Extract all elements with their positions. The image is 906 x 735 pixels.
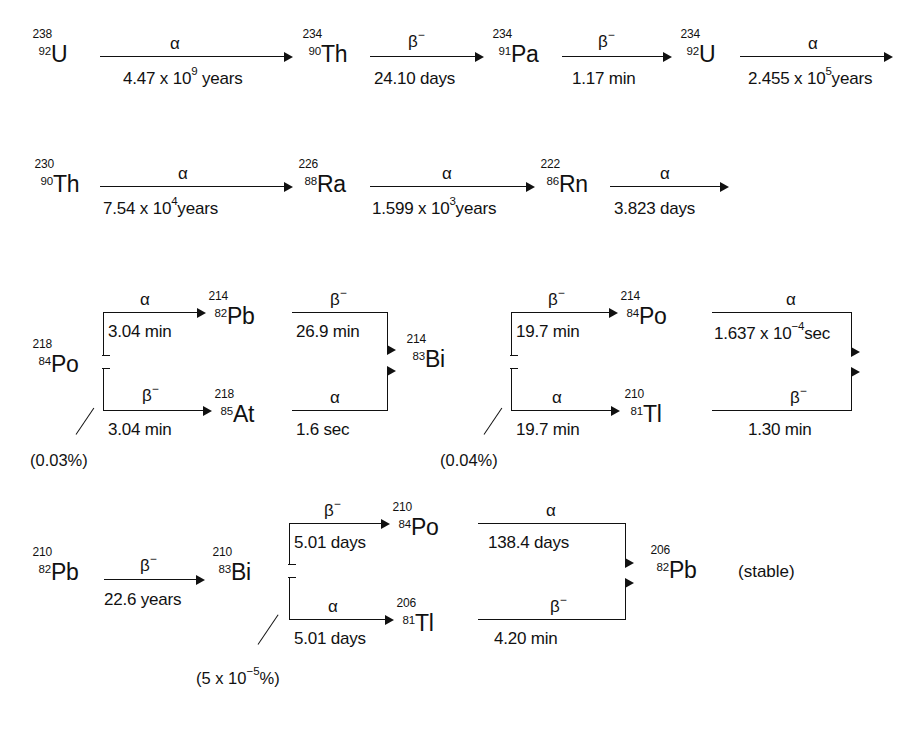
nuclide-po-210: 210 84 Po <box>390 503 440 533</box>
decay-mode-bi210-tl206: α <box>328 595 338 615</box>
arrow-shaft-ra226-rn222 <box>370 186 528 187</box>
nuclide-numbers: 214 82 <box>206 292 228 318</box>
nuclide-pb-214: 214 82 Pb <box>206 292 256 322</box>
arrowhead-tl210-pb210 <box>851 367 860 377</box>
decay-mode-tl206-pb206: β− <box>550 595 567 615</box>
arrow-shaft-po218-pb214 <box>103 312 199 313</box>
arrow-shaft-pb210-bi210 <box>104 579 198 580</box>
nuclide-ra-226: 226 88 Ra <box>296 160 347 190</box>
arrowhead-pb214-bi214 <box>387 345 396 355</box>
nuclide-numbers: 218 85 <box>212 390 234 416</box>
nuclide-th-230: 230 90 Th <box>32 160 80 190</box>
arrow-shaft-bi214-tl210 <box>511 410 613 411</box>
arrowhead-bi210-tl206 <box>385 615 394 625</box>
arrow-drop-po214-pb210 <box>851 312 852 352</box>
halflife-tl210-pb210: 1.30 min <box>748 421 812 438</box>
element-symbol: Tl <box>415 612 434 635</box>
element-symbol: Po <box>51 353 79 376</box>
halflife-at218-bi214: 1.6 sec <box>296 421 349 438</box>
decay-mode-tl210-pb210: β− <box>790 386 807 406</box>
element-symbol: Po <box>411 516 439 539</box>
element-symbol: Bi <box>425 348 445 371</box>
nuclide-numbers: 234 92 <box>678 30 700 56</box>
nuclide-numbers: 234 91 <box>490 30 512 56</box>
nuclide-numbers: 222 86 <box>538 160 560 186</box>
leader-line-branch-at218 <box>76 408 95 435</box>
arrow-shaft-u238-th234 <box>100 56 286 57</box>
element-symbol: Th <box>321 43 347 66</box>
arrowhead-pa234-u234 <box>663 52 672 62</box>
arrowhead-u238-th234 <box>284 52 293 62</box>
halflife-po218-pb214: 3.04 min <box>108 323 172 340</box>
arrow-shaft-pb214-bi214 <box>292 312 388 313</box>
decay-mode-u234-th230: α <box>808 32 818 52</box>
nuclide-numbers: 210 83 <box>210 548 232 574</box>
branch-label-tl206: (5 x 10−5%) <box>196 668 280 686</box>
arrowhead-rn222-po218 <box>720 182 729 192</box>
nuclide-u-234: 234 92 U <box>678 30 716 60</box>
arrow-riser-at218-bi214 <box>387 371 388 411</box>
nuclide-numbers: 218 84 <box>30 340 52 366</box>
arrow-riser-tl206-pb206 <box>625 583 626 620</box>
halflife-pa234-u234: 1.17 min <box>572 68 636 87</box>
halflife-u234-th230: 2.455 x 105years <box>748 68 872 87</box>
element-symbol: Pb <box>669 559 697 582</box>
arrowhead-th230-ra226 <box>284 182 293 192</box>
element-symbol: Rn <box>559 173 588 196</box>
arrow-shaft-th234-pa234 <box>370 56 477 57</box>
halflife-pb210-bi210: 22.6 years <box>104 591 181 608</box>
nuclide-numbers: 214 83 <box>404 335 426 361</box>
arrowhead-po218-pb214 <box>197 308 206 318</box>
element-symbol: Ra <box>317 173 346 196</box>
element-symbol: Po <box>639 305 667 328</box>
decay-mode-pb210-bi210: β− <box>140 554 157 574</box>
arrow-shaft-bi214-po214 <box>511 312 611 313</box>
arrowhead-at218-bi214 <box>387 366 396 376</box>
decay-mode-bi214-tl210: α <box>552 386 562 406</box>
arrowhead-po210-pb206 <box>625 558 634 568</box>
element-symbol: U <box>699 43 715 66</box>
nuclide-numbers: 226 88 <box>296 160 318 186</box>
decay-mode-pb214-bi214: β− <box>330 288 347 308</box>
nuclide-tl-206: 206 81 Tl <box>394 599 435 629</box>
nuclide-po-218: 218 84 Po <box>30 340 80 370</box>
arrow-drop-po210-pb206 <box>625 523 626 563</box>
arrow-shaft-u234-th230 <box>740 56 886 57</box>
nuclide-numbers: 230 90 <box>32 160 54 186</box>
decay-mode-th234-pa234: β− <box>408 30 425 50</box>
branch-label-at218: (0.03%) <box>30 452 88 469</box>
arrow-shaft-pa234-u234 <box>562 56 665 57</box>
halflife-th234-pa234: 24.10 days <box>374 68 455 87</box>
arrow-shaft-tl210-pb210 <box>712 410 852 411</box>
arrowhead-th234-pa234 <box>475 52 484 62</box>
nuclide-numbers: 238 92 <box>30 30 52 56</box>
arrow-shaft-bi210-po210 <box>289 523 383 524</box>
branch-drop-po218-at218 <box>103 368 104 411</box>
element-symbol: U <box>51 43 67 66</box>
nuclide-numbers: 210 82 <box>30 548 52 574</box>
nuclide-tl-210: 210 81 Tl <box>622 390 663 420</box>
branch-stub-bi214-upper <box>510 355 518 356</box>
arrowhead-bi210-po210 <box>381 519 390 529</box>
halflife-bi214-tl210: 19.7 min <box>516 421 580 438</box>
arrowhead-po218-at218 <box>203 406 212 416</box>
halflife-bi214-po214: 19.7 min <box>516 323 580 340</box>
halflife-po214-pb210: 1.637 x 10−4sec <box>714 323 830 342</box>
halflife-rn222-po218: 3.823 days <box>614 198 695 217</box>
arrow-shaft-po218-at218 <box>103 410 205 411</box>
arrow-shaft-po214-pb210 <box>712 312 852 313</box>
nuclide-numbers: 206 82 <box>648 546 670 572</box>
arrow-shaft-tl206-pb206 <box>478 619 626 620</box>
branch-drop-bi214-tl210 <box>511 368 512 411</box>
nuclide-at-218: 218 85 At <box>212 390 255 420</box>
nuclide-pa-234: 234 91 Pa <box>490 30 540 60</box>
halflife-po218-at218: 3.04 min <box>108 421 172 438</box>
arrow-shaft-bi210-tl206 <box>289 619 387 620</box>
element-symbol: Th <box>53 173 79 196</box>
leader-line-branch-tl206 <box>258 614 279 644</box>
halflife-th230-ra226: 7.54 x 104years <box>103 198 218 217</box>
arrowhead-po214-pb210 <box>851 347 860 357</box>
decay-mode-po210-pb206: α <box>546 499 556 519</box>
branch-stub-po218-upper <box>102 355 110 356</box>
branch-riser-po218-pb214 <box>103 312 104 356</box>
